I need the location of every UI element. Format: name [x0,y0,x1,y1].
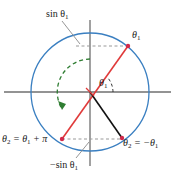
label-negative-sin-theta1: −sin θ1 [50,160,78,170]
black-radius-line [90,92,122,138]
leader-line-sin-top [62,21,80,44]
label-theta2-br-rest: = −θ [131,137,154,148]
label-sin-theta1: sin θ1 [46,9,68,19]
rotation-arc-green [57,59,90,109]
label-theta2-equals-minus-theta1: θ2 = −θ1 [123,138,158,148]
label-sin-theta1-subscript: 1 [65,13,69,21]
unit-circle-diagram [0,0,175,180]
label-theta2-br-subscript: 2 [128,142,132,150]
label-theta2-br-subscript2: 1 [155,142,159,150]
label-sin-theta1-text: sin θ [46,8,65,19]
label-neg-sin-subscript: 1 [75,164,79,172]
point-theta1-plus-pi [60,137,64,141]
label-neg-sin-text: −sin θ [50,159,75,170]
angle-arc-theta1 [108,78,113,92]
label-theta1-center-angle: θ1 [99,78,107,88]
label-theta2-bl-subscript2: 1 [27,138,31,146]
label-theta2-bl-tail: + π [31,133,48,144]
label-theta2-bl-rest: = θ [10,133,27,144]
label-theta1-top-right-subscript: 1 [137,34,141,42]
trigonometry-figure: sin θ1 θ1 θ1 θ2 = θ1 + π θ2 = −θ1 −sin θ… [0,0,175,180]
label-theta2-bl-subscript: 2 [7,138,11,146]
label-theta1-center-subscript: 1 [104,82,108,90]
point-theta1 [126,44,130,48]
label-theta2-equals-theta1-plus-pi: θ2 = θ1 + π [2,134,47,144]
label-theta1-top-right: θ1 [132,30,140,40]
rotation-arrowhead-icon [58,101,66,110]
